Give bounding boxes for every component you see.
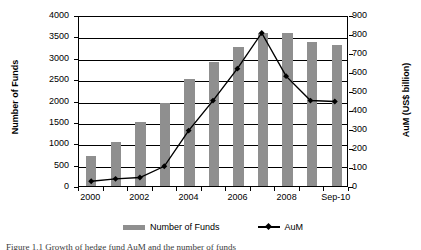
left-axis-title: Number of Funds: [10, 47, 20, 147]
figure-caption: Figure 1.1 Growth of hedge fund AuM and …: [6, 242, 416, 250]
left-tick-label: 2000: [29, 97, 69, 106]
line-marker: [137, 175, 143, 181]
x-tick-mark: [250, 187, 251, 191]
x-tick-label: 2004: [166, 192, 210, 202]
legend-item-number-of-funds[interactable]: Number of Funds: [123, 222, 220, 232]
line-marker: [113, 176, 119, 182]
x-tick-mark: [299, 187, 300, 191]
x-tick-mark: [323, 187, 324, 191]
legend-label-number-of-funds: Number of Funds: [150, 222, 220, 232]
left-tick-label: 2500: [29, 75, 69, 84]
right-tick-mark: [349, 187, 353, 188]
x-tick-mark: [274, 187, 275, 191]
right-tick-mark: [349, 73, 353, 74]
plot-area: [78, 16, 348, 187]
right-tick-label: 600: [352, 68, 392, 77]
x-tick-mark: [348, 187, 349, 191]
right-tick-label: 0: [352, 182, 392, 191]
aum-line-path: [91, 33, 335, 181]
right-tick-mark: [349, 92, 353, 93]
right-tick-label: 800: [352, 30, 392, 39]
left-tick-label: 3000: [29, 54, 69, 63]
left-tick-label: 1000: [29, 139, 69, 148]
left-tick-label: 500: [29, 161, 69, 170]
line-series-aum: [79, 17, 347, 186]
left-tick-label: 1500: [29, 118, 69, 127]
right-tick-label: 300: [352, 125, 392, 134]
x-tick-mark: [225, 187, 226, 191]
x-tick-label: 2006: [216, 192, 260, 202]
aum-line-markers: [88, 30, 338, 184]
x-tick-label: 2002: [117, 192, 161, 202]
x-tick-mark: [78, 187, 79, 191]
x-tick-mark: [127, 187, 128, 191]
right-tick-label: 100: [352, 163, 392, 172]
right-tick-mark: [349, 130, 353, 131]
x-tick-label: 2000: [68, 192, 112, 202]
x-tick-label: Sep-10: [314, 192, 358, 202]
line-marker: [88, 178, 94, 184]
right-tick-label: 400: [352, 106, 392, 115]
left-tick-label: 4000: [29, 11, 69, 20]
right-tick-label: 500: [352, 87, 392, 96]
line-marker: [332, 99, 338, 105]
x-tick-mark: [152, 187, 153, 191]
chart-legend: Number of Funds AuM: [78, 219, 348, 235]
line-marker-icon: [258, 223, 280, 231]
right-tick-label: 200: [352, 144, 392, 153]
x-tick-label: 2008: [265, 192, 309, 202]
left-tick-label: 3500: [29, 32, 69, 41]
right-tick-label: 700: [352, 49, 392, 58]
right-tick-mark: [349, 16, 353, 17]
x-tick-mark: [201, 187, 202, 191]
right-tick-mark: [349, 149, 353, 150]
right-tick-mark: [349, 54, 353, 55]
right-axis-title: AuM (US$ billion): [401, 45, 411, 155]
right-tick-mark: [349, 168, 353, 169]
bar-swatch-icon: [123, 225, 145, 230]
left-tick-label: 0: [29, 182, 69, 191]
right-tick-label: 900: [352, 11, 392, 20]
x-tick-mark: [103, 187, 104, 191]
x-tick-mark: [176, 187, 177, 191]
figure-container: Number of Funds AuM (US$ billion) 050010…: [0, 0, 421, 250]
right-tick-mark: [349, 35, 353, 36]
legend-item-aum[interactable]: AuM: [258, 222, 304, 232]
right-tick-mark: [349, 111, 353, 112]
legend-label-aum: AuM: [285, 222, 304, 232]
